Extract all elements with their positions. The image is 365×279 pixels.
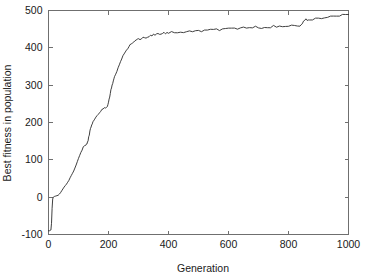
figure-background <box>0 0 365 279</box>
x-tick-label: 400 <box>160 238 178 250</box>
figure-container: 5004003002001000-100 02004006008001000 G… <box>0 0 365 279</box>
y-tick-label: -100 <box>21 228 42 240</box>
y-tick-label: 0 <box>37 191 43 203</box>
y-tick-label: 500 <box>25 4 43 16</box>
x-tick-label: 200 <box>100 238 118 250</box>
x-axis-title: Generation <box>177 262 229 274</box>
y-tick-label: 300 <box>25 79 43 91</box>
y-tick-label: 100 <box>25 153 43 165</box>
x-tick-label: 600 <box>220 238 238 250</box>
y-axis-title: Best fitness in population <box>1 64 13 181</box>
x-tick-label: 0 <box>46 238 52 250</box>
x-tick-label: 800 <box>280 238 298 250</box>
y-tick-label: 400 <box>25 41 43 53</box>
y-tick-label: 200 <box>25 116 43 128</box>
x-tick-label: 1000 <box>337 238 361 250</box>
chart-canvas: 5004003002001000-100 02004006008001000 G… <box>0 0 365 279</box>
